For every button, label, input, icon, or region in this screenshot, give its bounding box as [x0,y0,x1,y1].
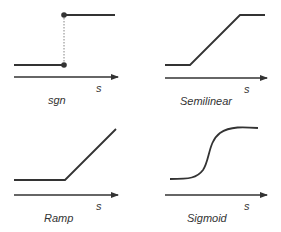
panel-label-ramp: Ramp [44,212,73,224]
semilinear-curve [165,15,265,65]
panel-sgn: s sgn [14,12,118,106]
axis-label-s: s [244,200,250,212]
activation-functions-diagram: s sgn s Semilinear s Ramp s Sigmoid [0,0,281,232]
sigmoid-curve [170,127,258,179]
sgn-upper-dot [61,12,67,18]
sgn-lower-dot [61,62,67,68]
panel-semilinear: s Semilinear [165,15,267,107]
panel-label-semilinear: Semilinear [180,95,233,107]
panel-label-sgn: sgn [48,94,66,106]
axis-label-s: s [96,82,102,94]
panel-sigmoid: s Sigmoid [165,127,267,224]
ramp-curve [14,129,116,180]
axis-label-s: s [96,200,102,212]
panel-label-sigmoid: Sigmoid [187,212,228,224]
axis-label-s: s [244,83,250,95]
panel-ramp: s Ramp [14,129,118,224]
